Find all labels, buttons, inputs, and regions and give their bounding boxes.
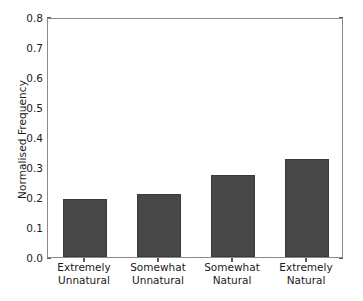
y-axis-tick-label: 0.0 — [8, 253, 43, 264]
bar — [285, 159, 330, 257]
bar — [63, 199, 108, 257]
x-axis-category-line: Extremely — [279, 261, 332, 273]
x-axis-category-line: Extremely — [57, 261, 110, 273]
x-axis-category-line: Somewhat — [130, 261, 186, 273]
bar-chart-figure: Normalised Frequency 0.00.10.20.30.40.50… — [0, 0, 363, 301]
bar — [211, 175, 256, 257]
y-axis-tick-label: 0.2 — [8, 193, 43, 204]
x-axis-category-label: ExtremelyNatural — [261, 261, 351, 287]
x-axis-category-line: Somewhat — [204, 261, 260, 273]
y-axis-tick-label: 0.4 — [8, 133, 43, 144]
bar-series — [48, 19, 342, 257]
y-axis-tick-label: 0.8 — [8, 13, 43, 24]
y-axis-tick-label: 0.6 — [8, 73, 43, 84]
y-axis-tick-label: 0.7 — [8, 43, 43, 54]
y-axis-tick-label: 0.1 — [8, 223, 43, 234]
y-axis-tick-label: 0.5 — [8, 103, 43, 114]
y-axis-tick-label: 0.3 — [8, 163, 43, 174]
plot-area — [47, 18, 343, 258]
bar — [137, 194, 182, 257]
x-axis-category-line: Natural — [261, 274, 351, 287]
